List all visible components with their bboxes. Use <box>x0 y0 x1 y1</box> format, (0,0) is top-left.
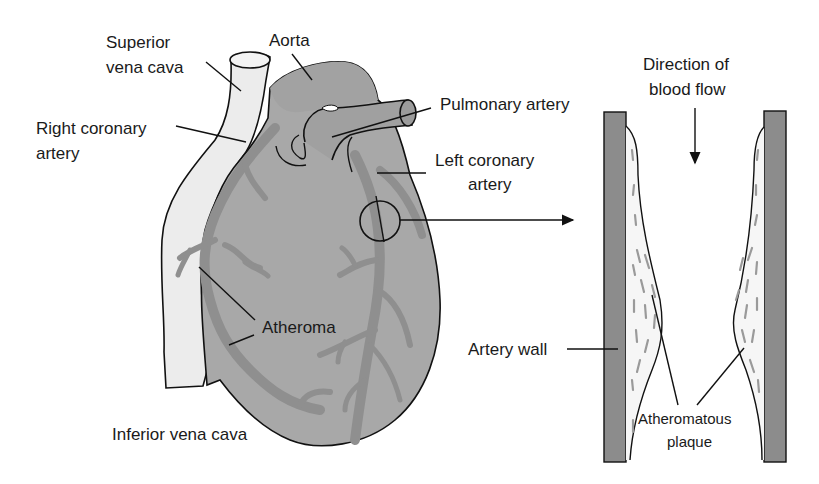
label-pulmonary-artery: Pulmonary artery <box>440 95 570 114</box>
label-superior-vena-cava-line2: vena cava <box>106 58 184 77</box>
label-aorta: Aorta <box>269 31 310 50</box>
label-direction-of-blood-flow-line2: blood flow <box>649 80 726 99</box>
label-inferior-vena-cava: Inferior vena cava <box>112 425 248 444</box>
artery-cross-section <box>604 108 786 462</box>
label-left-coronary-artery-line2: artery <box>468 175 512 194</box>
label-atheromatous-plaque-line1: Atheromatous <box>638 410 731 427</box>
label-artery-wall: Artery wall <box>468 340 547 359</box>
label-right-coronary-artery-line1: Right coronary <box>36 119 147 138</box>
label-atheroma: Atheroma <box>262 318 336 337</box>
label-atheromatous-plaque-line2: plaque <box>667 433 712 450</box>
label-right-coronary-artery-line2: artery <box>36 144 80 163</box>
heart-illustration <box>162 52 441 446</box>
artery-wall-left <box>604 112 626 462</box>
heart-atheroma-diagram: Superior vena cava Aorta Pulmonary arter… <box>0 0 819 484</box>
label-direction-of-blood-flow-line1: Direction of <box>643 55 729 74</box>
label-left-coronary-artery-line1: Left coronary <box>435 151 535 170</box>
label-superior-vena-cava-line1: Superior <box>106 33 171 52</box>
superior-vena-cava-opening <box>230 52 270 68</box>
artery-wall-right <box>764 111 786 462</box>
